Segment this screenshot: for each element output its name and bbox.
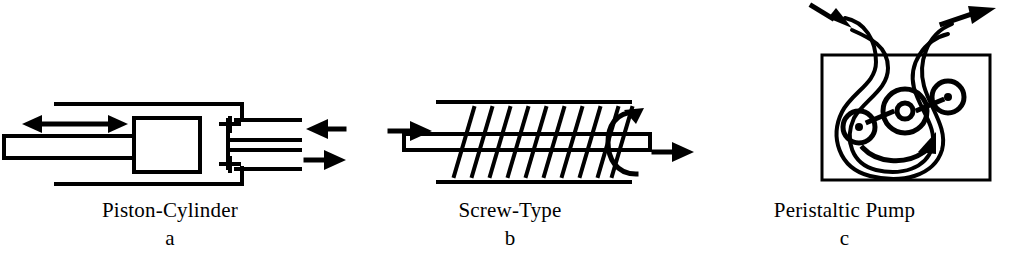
flexible-tube [837,18,952,179]
panel-screw-type: Screw-Type b [340,0,680,269]
panel-b-title: Screw-Type [340,198,680,223]
panel-peristaltic-pump: Peristaltic Pump c [680,0,1009,269]
piston-cylinder-pump-icon [0,0,340,200]
panel-a-letter: a [0,226,340,251]
peristaltic-pump-icon [680,0,1009,200]
panel-b-letter: b [340,226,680,251]
piston-rod [4,136,134,158]
screw-type-pump-icon [340,0,680,200]
roller-left [843,111,875,143]
outlet-flow-arrow [942,6,996,24]
screw-shaft [404,134,650,150]
panel-c-letter: c [680,226,1009,251]
reciprocating-motion-arrow [22,115,128,133]
inlet-flow-arrow [390,121,432,141]
helical-flight [454,108,632,176]
outlet-port [228,150,300,169]
pump-types-figure: Piston-Cylinder a [0,0,1009,269]
panel-a-title: Piston-Cylinder [0,198,340,223]
panel-c-title: Peristaltic Pump [680,198,1009,223]
roller-right [932,81,964,113]
inlet-flow-arrow [306,119,344,139]
panel-piston-cylinder: Piston-Cylinder a [0,0,340,269]
piston-block [134,118,200,172]
